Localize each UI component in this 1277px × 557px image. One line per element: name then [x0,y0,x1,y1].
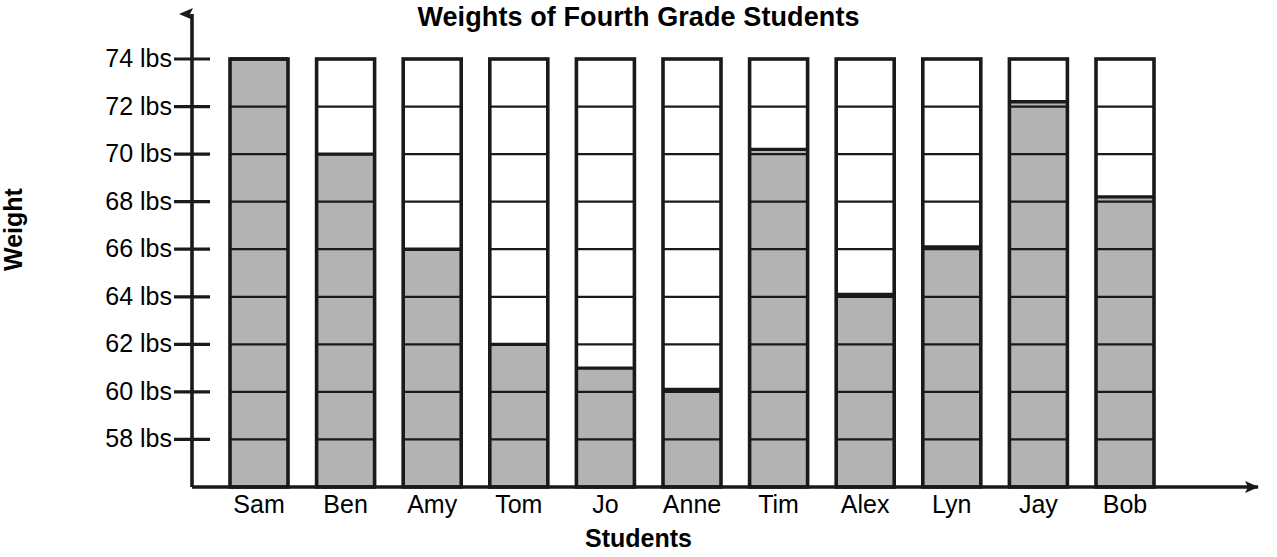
bar-fill [923,247,981,487]
bar-sam[interactable] [230,59,288,487]
bar-jo[interactable] [576,59,634,487]
bar-bob[interactable] [1096,59,1154,487]
bar-fill [836,294,894,487]
bar-fill [1009,102,1067,487]
bar-fill [230,59,288,487]
chart-page: Weights of Fourth Grade Students Weight … [0,0,1277,557]
bar-fill [663,390,721,487]
x-tick-label-bob: Bob [1045,492,1205,517]
bar-fill [750,149,808,487]
bar-tom[interactable] [490,59,548,487]
bar-ben[interactable] [317,59,375,487]
bar-lyn[interactable] [923,59,981,487]
bar-tim[interactable] [750,59,808,487]
bar-alex[interactable] [836,59,894,487]
bar-fill [403,249,461,487]
bar-anne[interactable] [663,59,721,487]
bar-fill [317,154,375,487]
bar-chart-plot [0,0,1277,557]
bars-layer [230,59,1154,487]
bar-fill [576,368,634,487]
bar-fill [490,344,548,487]
bar-amy[interactable] [403,59,461,487]
bar-jay[interactable] [1009,59,1067,487]
bar-fill [1096,197,1154,487]
